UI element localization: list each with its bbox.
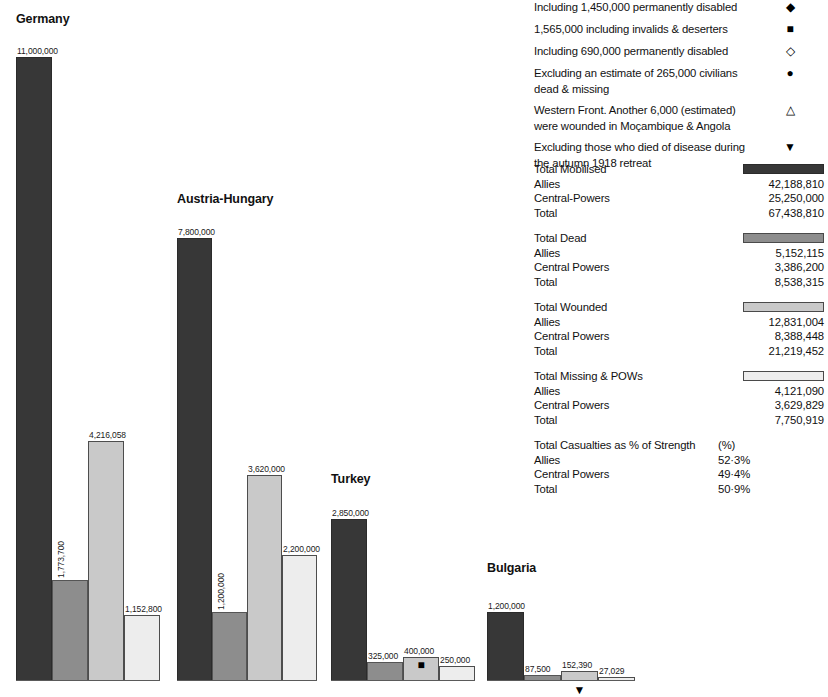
summary-unit-label: (%)	[718, 438, 824, 453]
bar-value-label: 11,000,000	[17, 46, 58, 56]
series-color-swatch	[743, 302, 824, 312]
summary-row-value: 21,219,452	[718, 344, 824, 359]
group-title: Germany	[16, 12, 70, 26]
group-title: Turkey	[331, 472, 370, 486]
bar: 1,773,700	[52, 580, 88, 680]
summary-heading-label: Total Dead	[534, 231, 718, 246]
footnote-symbol-icon: ◆	[780, 0, 800, 15]
summary-row-label: Total	[534, 413, 718, 428]
footnote-legend: Including 1,450,000 permanently disabled…	[534, 0, 824, 177]
bar-slot: 400,000■	[403, 657, 439, 680]
summary-row-value: 8,388,448	[718, 329, 824, 344]
footnote-text: Including 690,000 permanently disabled	[534, 44, 762, 60]
footnote-item: Western Front. Another 6,000 (estimated)…	[534, 103, 824, 134]
summary-row: Central Powers3,386,200	[534, 260, 824, 275]
summary-row-label: Central-Powers	[534, 191, 718, 206]
bar-value-label: 3,620,000	[248, 464, 285, 474]
bar: 2,200,000	[282, 555, 317, 680]
swatch-cell	[718, 233, 824, 243]
summary-row-label: Allies	[534, 453, 718, 468]
bar-slot: 11,000,000	[16, 57, 52, 680]
summary-row-label: Central Powers	[534, 329, 718, 344]
footnote-text: 1,565,000 including invalids & deserters	[534, 22, 762, 38]
bars-container: 11,000,0001,773,7004,216,0581,152,800	[16, 57, 160, 681]
group-title: Austria-Hungary	[177, 192, 273, 206]
bar-slot: 1,773,700	[52, 580, 88, 680]
swatch-cell	[718, 164, 824, 174]
summary-row-value: 42,188,810	[718, 177, 824, 192]
summary-row: Central-Powers25,250,000	[534, 191, 824, 206]
summary-row-value: 25,250,000	[718, 191, 824, 206]
summary-heading-row: Total Missing & POWs	[534, 369, 824, 384]
summary-heading-label: Total Wounded	[534, 300, 718, 315]
bar-value-label: 1,200,000	[216, 573, 226, 610]
bar-slot: 2,850,000	[331, 519, 367, 680]
right-panel: Including 1,450,000 permanently disabled…	[520, 0, 828, 697]
summary-row-value: 50·9%	[718, 482, 824, 497]
summary-row-value: 3,629,829	[718, 398, 824, 413]
summary-heading-row: Total Wounded	[534, 300, 824, 315]
summary-row: Central Powers49·4%	[534, 467, 824, 482]
bar-value-label: 325,000	[368, 651, 398, 661]
summary-row: Central Powers8,388,448	[534, 329, 824, 344]
bars-container: 2,850,000325,000400,000■250,000	[331, 519, 475, 681]
bar-value-label: 1,152,800	[125, 604, 162, 614]
bar-value-label: 400,000	[404, 646, 434, 656]
footnote-marker-icon: ■	[417, 659, 424, 671]
summary-row-label: Total	[534, 275, 718, 290]
bar-value-label: 4,216,058	[89, 430, 126, 440]
summary-row-value: 49·4%	[718, 467, 824, 482]
summary-row-value: 12,831,004	[718, 315, 824, 330]
bar: 4,216,058	[88, 441, 124, 680]
footnote-item: Excluding an estimate of 265,000 civilia…	[534, 66, 824, 97]
bar: 250,000	[439, 666, 475, 680]
footnote-symbol-icon: ●	[780, 66, 800, 81]
summary-row-label: Central Powers	[534, 260, 718, 275]
bar-slot: 2,200,000	[282, 555, 317, 680]
footnote-item: 1,565,000 including invalids & deserters…	[534, 22, 824, 38]
summary-row-value: 8,538,315	[718, 275, 824, 290]
summary-heading-row: Total Dead	[534, 231, 824, 246]
bar-value-label: 250,000	[440, 655, 470, 665]
bar-slot: 7,800,000	[177, 238, 212, 680]
summary-row-value: 5,152,115	[718, 246, 824, 261]
summary-heading-label: Total Missing & POWs	[534, 369, 718, 384]
footnote-item: Including 690,000 permanently disabled◇	[534, 44, 824, 60]
bar: 1,200,000	[212, 612, 247, 680]
bar-value-label: 2,200,000	[283, 544, 320, 554]
summary-row: Total67,438,810	[534, 206, 824, 221]
summary-row: Total8,538,315	[534, 275, 824, 290]
footnote-text: Excluding an estimate of 265,000 civilia…	[534, 66, 762, 97]
summary-row-label: Central Powers	[534, 398, 718, 413]
footnote-symbol-icon: △	[780, 103, 800, 118]
summary-row-value: 7,750,919	[718, 413, 824, 428]
bar: 11,000,000	[16, 57, 52, 680]
bars-container: 7,800,0001,200,0003,620,0002,200,000	[177, 238, 317, 681]
summary-row-value: 3,386,200	[718, 260, 824, 275]
summary-row: Allies5,152,115	[534, 246, 824, 261]
bar-slot: 1,200,000	[487, 612, 524, 680]
series-color-swatch	[743, 371, 824, 381]
summary-heading-label: Total Mobilised	[534, 162, 718, 177]
footnote-symbol-icon: ▼	[780, 140, 800, 155]
summary-row-value: 67,438,810	[718, 206, 824, 221]
summary-row: Allies4,121,090	[534, 384, 824, 399]
swatch-cell	[718, 302, 824, 312]
summary-row: Total50·9%	[534, 482, 824, 497]
summary-heading-row: Total Mobilised	[534, 162, 824, 177]
summary-row-label: Total	[534, 482, 718, 497]
summary-row: Central Powers3,629,829	[534, 398, 824, 413]
bar-slot: 1,200,000	[212, 612, 247, 680]
footnote-text: Western Front. Another 6,000 (estimated)…	[534, 103, 762, 134]
bar-chart: Germany11,000,0001,773,7004,216,0581,152…	[0, 0, 520, 697]
summary-row: Total7,750,919	[534, 413, 824, 428]
summary-row: Allies42,188,810	[534, 177, 824, 192]
footnote-text: Including 1,450,000 permanently disabled	[534, 0, 762, 16]
bar: 3,620,000	[247, 475, 282, 680]
summary-table: Total MobilisedAllies42,188,810Central-P…	[534, 162, 824, 507]
bar: 1,152,800	[124, 615, 160, 680]
footnote-symbol-icon: ◇	[780, 44, 800, 59]
footnote-item: Including 1,450,000 permanently disabled…	[534, 0, 824, 16]
summary-block: Total DeadAllies5,152,115Central Powers3…	[534, 231, 824, 289]
summary-row: Total21,219,452	[534, 344, 824, 359]
